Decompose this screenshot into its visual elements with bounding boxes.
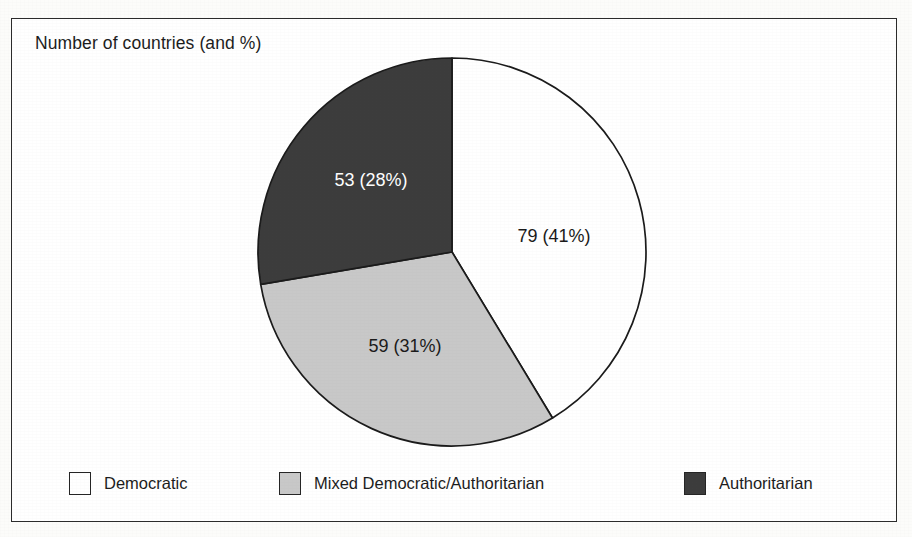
legend-swatch-democratic (69, 472, 91, 495)
legend-label-mixed: Mixed Democratic/Authoritarian (314, 474, 544, 493)
legend-label-authoritarian: Authoritarian (719, 474, 813, 493)
pie-svg: 79 (41%)59 (31%)53 (28%) (0, 0, 912, 537)
legend-item-democratic[interactable]: Democratic (69, 468, 187, 498)
pie-slice-value-3: 53 (28%) (334, 170, 407, 190)
pie-slice-value-2: 59 (31%) (368, 336, 441, 356)
pie-slice-value-1: 79 (41%) (517, 226, 590, 246)
legend-swatch-authoritarian (684, 472, 706, 495)
legend-item-authoritarian[interactable]: Authoritarian (684, 468, 813, 498)
pie-chart-figure: Number of countries (and %) 79 (41%)59 (… (0, 0, 912, 537)
chart-legend: Democratic Mixed Democratic/Authoritaria… (11, 466, 897, 506)
legend-swatch-mixed (279, 472, 301, 495)
legend-item-mixed[interactable]: Mixed Democratic/Authoritarian (279, 468, 544, 498)
legend-label-democratic: Democratic (104, 474, 187, 493)
pie-chart-area: 79 (41%)59 (31%)53 (28%) (0, 0, 912, 537)
pie-slices (258, 58, 646, 446)
